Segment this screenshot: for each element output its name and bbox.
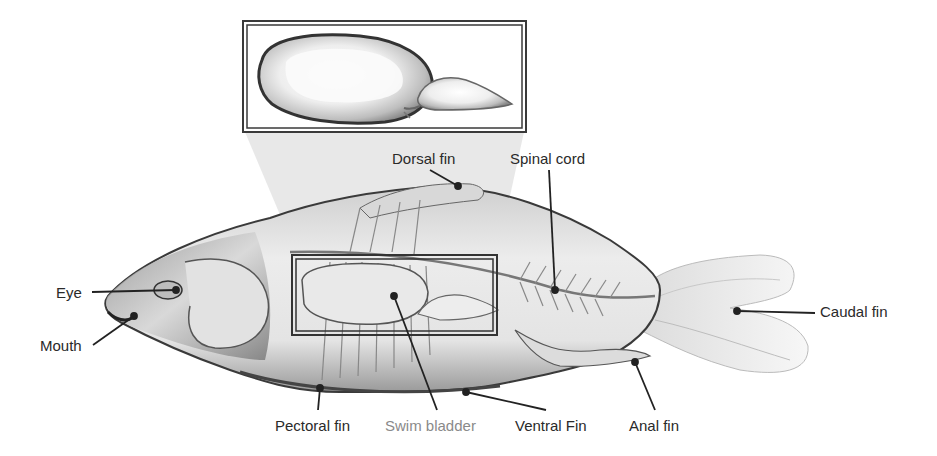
label-spinal-cord: Spinal cord — [510, 150, 585, 168]
fish-anatomy-diagram: Dorsal fin Spinal cord Eye Mouth Caudal … — [0, 0, 937, 456]
label-dorsal-fin: Dorsal fin — [392, 150, 455, 168]
label-caudal-fin: Caudal fin — [820, 303, 888, 321]
label-pectoral-fin: Pectoral fin — [275, 417, 350, 435]
label-ventral-fin: Ventral Fin — [515, 417, 587, 435]
fish-body — [105, 184, 808, 392]
label-anal-fin: Anal fin — [629, 417, 679, 435]
swim-bladder-inset — [243, 21, 526, 132]
label-swim-bladder: Swim bladder — [385, 417, 476, 435]
diagram-canvas — [0, 0, 937, 456]
label-mouth: Mouth — [40, 337, 82, 355]
label-eye: Eye — [56, 284, 82, 302]
